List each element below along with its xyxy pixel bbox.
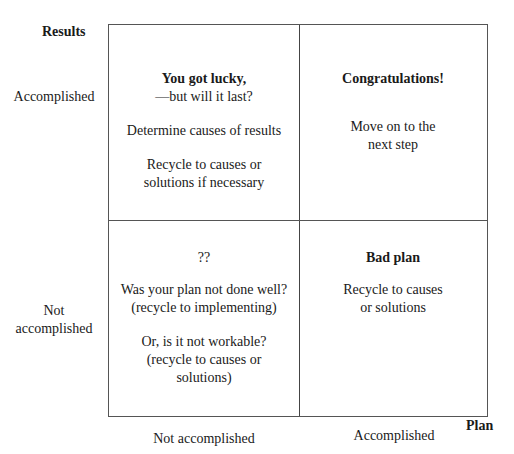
quadrant-text: (recycle to implementing) bbox=[115, 299, 293, 317]
row-label-accomplished: Accomplished bbox=[2, 88, 106, 106]
quadrant-top-left: You got lucky, —but will it last? Determ… bbox=[109, 70, 299, 192]
quadrant-bottom-right: Bad plan Recycle to causes or solutions bbox=[299, 249, 487, 317]
quadrant-top-right: Congratulations! Move on to the next ste… bbox=[299, 70, 487, 154]
quadrant-heading: Bad plan bbox=[305, 249, 481, 267]
quadrant-text: solutions if necessary bbox=[115, 174, 293, 192]
quadrant-heading: Congratulations! bbox=[305, 70, 481, 88]
quadrant-text: Determine causes of results bbox=[115, 122, 293, 140]
horizontal-divider bbox=[109, 220, 487, 221]
quadrant-text: Recycle to causes bbox=[305, 281, 481, 299]
quadrant-text: next step bbox=[305, 136, 481, 154]
quadrant-heading: ?? bbox=[115, 249, 293, 267]
quadrant-grid: You got lucky, —but will it last? Determ… bbox=[108, 24, 488, 417]
quadrant-text: or solutions bbox=[305, 299, 481, 317]
column-label-accomplished: Accomplished bbox=[300, 428, 488, 444]
quadrant-heading: You got lucky, bbox=[115, 70, 293, 88]
row-label-not-text: Not bbox=[2, 302, 106, 320]
quadrant-text: solutions) bbox=[115, 369, 293, 387]
column-label-not-accomplished: Not accomplished bbox=[108, 431, 300, 447]
row-label-accomplished-text: Accomplished bbox=[14, 89, 95, 104]
quadrant-text: (recycle to causes or bbox=[115, 351, 293, 369]
quadrant-text: Was your plan not done well? bbox=[115, 281, 293, 299]
x-axis-title: Plan bbox=[466, 418, 493, 434]
row-label-not-accomplished: Not accomplished bbox=[2, 302, 106, 338]
quadrant-bottom-left: ?? Was your plan not done well? (recycle… bbox=[109, 249, 299, 387]
quadrant-subheading: —but will it last? bbox=[115, 88, 293, 106]
quadrant-text: Move on to the bbox=[305, 118, 481, 136]
quadrant-text: Recycle to causes or bbox=[115, 156, 293, 174]
quadrant-text: Or, is it not workable? bbox=[115, 333, 293, 351]
y-axis-title: Results bbox=[42, 24, 86, 40]
row-label-accomplished2-text: accomplished bbox=[2, 320, 106, 338]
